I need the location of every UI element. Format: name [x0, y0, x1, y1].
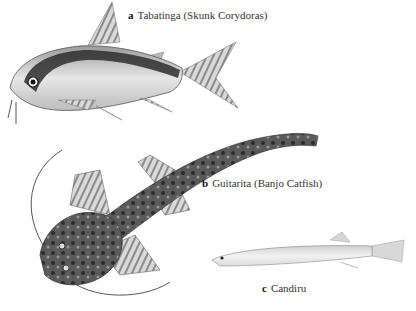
caption-text: Candiru	[271, 282, 306, 294]
caption-c: cCandiru	[262, 282, 306, 294]
caption-letter: a	[128, 9, 134, 21]
caption-a: aTabatinga (Skunk Corydoras)	[128, 9, 267, 21]
caption-b: bGuitarita (Banjo Catfish)	[202, 177, 322, 189]
caudal-fin	[180, 42, 238, 108]
caption-letter: c	[262, 282, 267, 294]
dorsal-fin	[88, 2, 120, 45]
caudal-fin	[372, 240, 404, 262]
fish-b-head	[40, 212, 122, 284]
caption-text: Guitarita (Banjo Catfish)	[212, 177, 322, 189]
fish-b-banjo-catfish	[31, 134, 318, 296]
fish-illustration-plate	[0, 0, 416, 311]
fish-c-candiru	[212, 232, 404, 268]
pectoral-fin-top	[70, 170, 110, 215]
caption-text: Tabatinga (Skunk Corydoras)	[138, 9, 268, 21]
caption-letter: b	[202, 177, 208, 189]
fish-c-body	[212, 246, 372, 266]
